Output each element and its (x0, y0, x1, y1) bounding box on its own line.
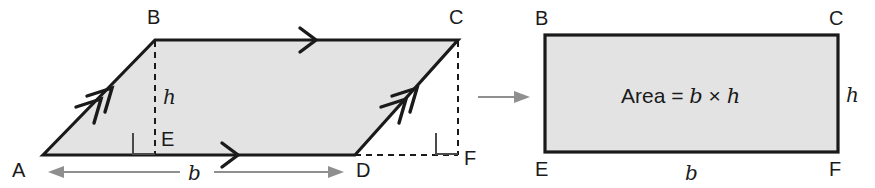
rect-base-label-b: b (685, 161, 698, 185)
vertex-label-A: A (12, 159, 26, 181)
rect-vertex-label-C: C (829, 7, 843, 29)
area-times: × (709, 84, 721, 107)
area-equals: = (671, 84, 683, 107)
parallelogram-shape (43, 40, 458, 155)
rect-vertex-label-B: B (535, 7, 548, 29)
parallelogram-group: A B C D E F h b (12, 6, 476, 185)
geometry-diagram: A B C D E F h b B C (0, 0, 875, 188)
diagram-canvas: A B C D E F h b B C (0, 0, 875, 188)
height-label-h-parallelogram: h (163, 85, 176, 109)
area-base-var: b (689, 84, 702, 108)
vertex-label-F: F (464, 147, 476, 169)
area-formula: Area = b × h (621, 84, 740, 108)
rectangle-group: B C E F h b Area = b × h (535, 7, 859, 185)
vertex-label-E: E (161, 128, 174, 150)
vertex-label-C: C (449, 6, 463, 28)
area-height-var: h (727, 84, 741, 108)
area-word: Area (621, 84, 666, 107)
rect-vertex-label-E: E (535, 158, 548, 180)
vertex-label-B: B (147, 6, 160, 28)
right-angle-marker-F (436, 133, 458, 154)
transformation-arrow (478, 91, 530, 103)
rect-vertex-label-F: F (829, 158, 841, 180)
rect-height-label-h: h (846, 83, 859, 107)
base-label-b-parallelogram: b (188, 161, 201, 185)
vertex-label-D: D (356, 159, 370, 181)
